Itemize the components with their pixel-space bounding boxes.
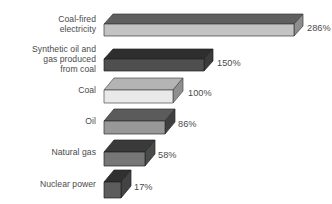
- bar-row: Coal 100%: [0, 76, 332, 108]
- bar-value-label: 286%: [307, 23, 331, 34]
- bar-value-label: 17%: [134, 182, 153, 193]
- bar-chart: Coal-fired electricity 286% Synthetic oi…: [0, 0, 332, 204]
- bar-3d-shape: [104, 170, 132, 204]
- bar-front-face: [104, 152, 145, 166]
- bar-category-label: Coal-fired electricity: [58, 14, 96, 34]
- bar-front-face: [104, 59, 204, 71]
- bar-category-label: Nuclear power: [40, 179, 96, 189]
- bar-top-face: [104, 49, 213, 59]
- bar-top-face: [104, 78, 183, 90]
- bar-svg: [104, 14, 304, 44]
- bar-value-label: 58%: [158, 150, 177, 161]
- bar-value-label: 100%: [188, 88, 212, 99]
- bar-3d-shape: [104, 14, 304, 44]
- bar-value-label: 86%: [178, 119, 197, 130]
- bar-front-face: [104, 182, 121, 198]
- bar-top-face: [104, 109, 175, 121]
- bar-category-label: Oil: [85, 116, 96, 126]
- bar-row: Synthetic oil and gas produced from coal…: [0, 44, 332, 78]
- bar-front-face: [104, 121, 165, 134]
- bar-svg: [104, 170, 132, 204]
- bar-row: Nuclear power 17%: [0, 168, 332, 202]
- bar-row: Oil 86%: [0, 106, 332, 138]
- bar-3d-shape: [104, 49, 214, 79]
- bar-front-face: [104, 24, 294, 36]
- bar-svg: [104, 49, 214, 79]
- bar-row: Natural gas 58%: [0, 137, 332, 169]
- bar-category-label: Coal: [78, 85, 96, 95]
- chart-plot-area: Coal-fired electricity 286% Synthetic oi…: [0, 0, 332, 204]
- bar-category-label: Synthetic oil and gas produced from coal: [32, 44, 96, 75]
- bar-front-face: [104, 90, 173, 103]
- bar-row: Coal-fired electricity 286%: [0, 10, 332, 42]
- bar-top-face: [104, 14, 303, 24]
- bar-value-label: 150%: [217, 58, 241, 69]
- bar-category-label: Natural gas: [52, 147, 97, 157]
